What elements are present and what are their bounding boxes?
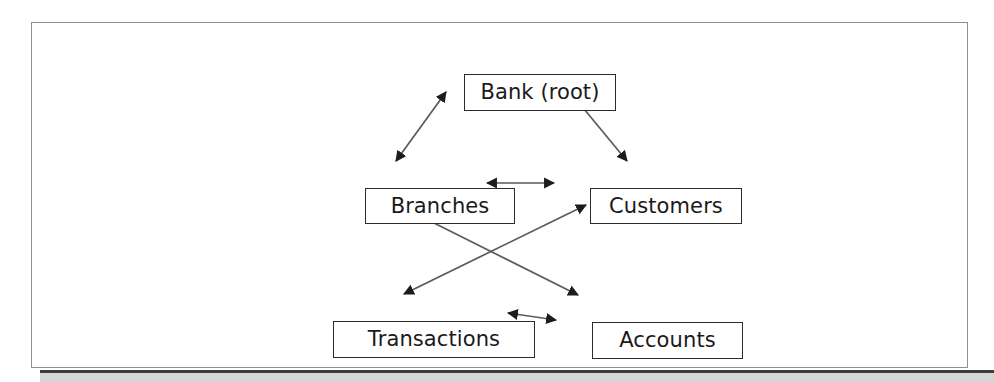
page-bottom-band <box>40 370 994 382</box>
node-customers-label: Customers <box>605 196 727 217</box>
node-branches[interactable]: Branches <box>365 188 515 224</box>
node-customers[interactable]: Customers <box>590 188 742 224</box>
node-accounts[interactable]: Accounts <box>592 322 743 359</box>
node-bank[interactable]: Bank (root) <box>464 74 616 111</box>
node-transactions[interactable]: Transactions <box>333 321 535 358</box>
node-bank-label: Bank (root) <box>476 82 603 103</box>
figure-frame: Bank (root) Branches Customers Transacti… <box>31 22 968 368</box>
edge-bank-branches <box>396 92 446 161</box>
node-branches-label: Branches <box>387 196 494 217</box>
page-canvas: Bank (root) Branches Customers Transacti… <box>0 0 994 382</box>
node-accounts-label: Accounts <box>615 330 720 351</box>
edge-transactions-accounts <box>508 313 556 320</box>
node-transactions-label: Transactions <box>364 329 504 350</box>
